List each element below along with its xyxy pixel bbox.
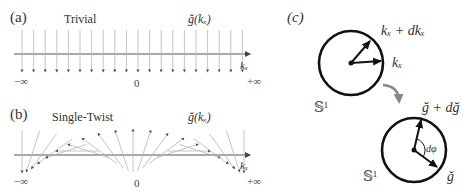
panel-b-arrows (14, 130, 250, 172)
label-kx-plus-dkx: kₓ + dkₓ (381, 24, 425, 38)
top-circle-group (319, 31, 383, 95)
panel-a-arrows (14, 30, 250, 71)
panel-a-field-label: ğ(kₓ) (188, 13, 211, 25)
panel-a-tick-right: +∞ (247, 76, 261, 87)
field-arrow (143, 134, 168, 168)
panel-b-field-label: ğ(kₓ) (188, 111, 211, 123)
panel-b-tick-center: 0 (134, 178, 140, 189)
field-arrow (27, 131, 40, 171)
field-arrow (226, 131, 239, 171)
map-arrow (383, 85, 399, 100)
field-arrow (32, 134, 57, 168)
field-arrow (138, 131, 151, 171)
panel-a-tag: (a) (10, 10, 27, 25)
field-arrow (99, 134, 124, 168)
panel-a-title: Trivial (64, 13, 96, 25)
panel-a-axis-label: kₓ (240, 60, 248, 71)
arrow-kx (351, 61, 381, 63)
panel-a-tick-center: 0 (134, 78, 140, 89)
panel-a-tick-left: −∞ (14, 76, 28, 87)
label-g-plus-dg: ğ + dğ (422, 101, 459, 115)
field-arrow (210, 134, 235, 168)
label-dphi: dφ (426, 144, 437, 154)
field-arrow (115, 131, 128, 171)
panel-b-tick-right: +∞ (247, 176, 261, 187)
arrow-g-plus-dg (414, 120, 421, 150)
label-kx: kₓ (392, 56, 402, 70)
panel-b-axis-label: kₓ (240, 160, 248, 171)
top-space-label: 𝕊¹ (314, 101, 328, 115)
panel-c-tag: (c) (287, 10, 304, 25)
panel-b-tick-left: −∞ (14, 176, 28, 187)
label-g: ğ (447, 170, 454, 184)
panel-b-title: Single-Twist (52, 111, 113, 123)
bottom-space-label: 𝕊¹ (363, 170, 377, 184)
panel-b-tag: (b) (10, 107, 28, 122)
arrow-kx-plus-dkx (351, 41, 370, 63)
